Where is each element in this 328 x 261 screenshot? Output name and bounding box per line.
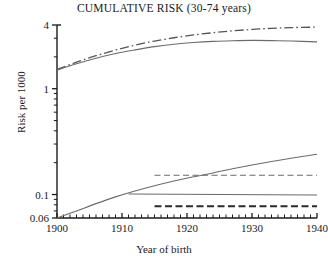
x-tick-label: 1920 [176,222,199,234]
cumulative-risk-chart-figure: CUMULATIVE RISK (30-74 years) Risk per 1… [0,0,328,261]
data-series-group [57,27,317,218]
x-tick-label: 1930 [241,222,264,234]
y-tick-label: 1 [44,83,50,95]
series-lower-rising-solid-curve [57,154,317,218]
y-tick-label: 0.1 [35,189,49,201]
x-tick-label: 1940 [306,222,328,234]
y-tick-label: 0.06 [30,212,50,224]
x-tick-label: 1910 [111,222,134,234]
axes-group [57,25,317,218]
plot-area: 190019101920193019400.060.114 [0,0,328,261]
y-tick-label: 4 [44,19,50,31]
series-upper-dash-dot-curve [57,27,317,69]
axis-tick-labels-group: 190019101920193019400.060.114 [30,19,328,234]
series-mid-solid-constant-line [129,194,318,195]
axis-ticks-group [52,25,317,218]
x-tick-label: 1900 [46,222,69,234]
